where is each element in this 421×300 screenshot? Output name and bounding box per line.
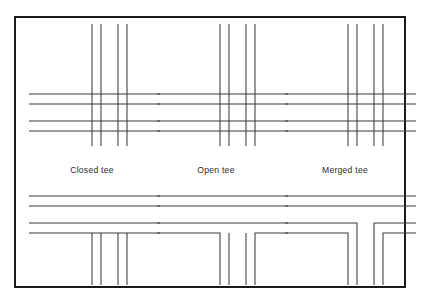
caption-open: Open tee — [197, 165, 234, 175]
tee-junction-figure: Closed teeOpen teeMerged tee — [0, 0, 421, 300]
caption-closed: Closed tee — [70, 165, 114, 175]
caption-merged: Merged tee — [322, 165, 368, 175]
figure-border — [15, 17, 405, 287]
figure-canvas: Closed teeOpen teeMerged tee — [0, 0, 421, 300]
